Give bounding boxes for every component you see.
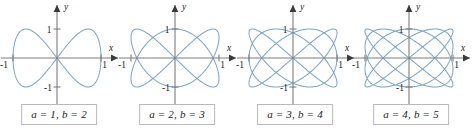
y-axis-label: y [63,2,69,12]
x-axis-label: x [226,43,232,53]
x-tick-label-1: 1 [338,60,343,70]
x-tick-label-neg-1: -1 [352,60,360,70]
x-axis-arrow-icon [463,55,470,62]
y-tick-label-1: 1 [47,25,52,35]
y-axis-arrow-icon [172,5,179,12]
lissajous-panel: -111-1xya = 1, b = 2 [0,0,118,137]
x-tick-label-1: 1 [220,60,225,70]
y-tick-label-neg-1: -1 [162,83,170,93]
lissajous-panel: -111-1xya = 2, b = 3 [118,0,236,137]
x-axis-arrow-icon [111,55,118,62]
panel-caption: a = 4, b = 5 [373,104,449,125]
lissajous-panel: -111-1xya = 3, b = 4 [236,0,354,137]
x-axis-label: x [344,43,350,53]
x-tick-label-1: 1 [454,60,459,70]
y-tick-label-neg-1: -1 [280,83,288,93]
y-axis-arrow-icon [54,5,61,12]
y-tick-label-neg-1: -1 [396,83,404,93]
lissajous-panel: -111-1xya = 4, b = 5 [352,0,470,137]
y-tick-label-neg-1: -1 [44,83,52,93]
x-tick-label-neg-1: -1 [118,60,126,70]
y-axis-arrow-icon [290,5,297,12]
x-tick-label-neg-1: -1 [236,60,244,70]
panel-caption: a = 2, b = 3 [139,104,215,125]
lissajous-figure-group: -111-1xya = 1, b = 2-111-1xya = 2, b = 3… [0,0,472,137]
y-tick-label-1: 1 [283,25,288,35]
plot-area: -111-1xy [118,0,236,104]
x-axis-label: x [460,43,466,53]
y-axis-arrow-icon [406,5,413,12]
x-tick-label-1: 1 [102,60,107,70]
y-axis-label: y [415,2,421,12]
y-axis-label: y [181,2,187,12]
plot-area: -111-1xy [352,0,470,104]
x-tick-label-neg-1: -1 [0,60,8,70]
plot-area: -111-1xy [0,0,118,104]
y-axis-label: y [299,2,305,12]
panel-caption: a = 1, b = 2 [21,104,97,125]
plot-area: -111-1xy [236,0,354,104]
panel-caption: a = 3, b = 4 [257,104,333,125]
x-axis-label: x [108,43,114,53]
y-tick-label-1: 1 [399,25,404,35]
y-tick-label-1: 1 [165,25,170,35]
x-axis-arrow-icon [229,55,236,62]
